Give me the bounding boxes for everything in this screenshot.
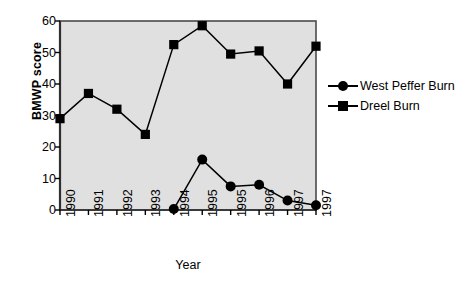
legend-item-2[interactable]: Dreel Burn: [328, 96, 468, 116]
x-tick-label: 1995: [207, 189, 220, 217]
x-tick-label: 1993: [150, 189, 163, 217]
x-tick-label: 1994: [179, 189, 192, 217]
x-tick-label: 1991: [93, 189, 106, 217]
x-tick-label: 1997: [293, 189, 306, 217]
x-tick-label: 1992: [122, 189, 135, 217]
legend-marker-circle-icon: [328, 79, 358, 93]
legend-label: West Peffer Burn: [358, 79, 455, 93]
x-tick-label: 1995: [236, 189, 249, 217]
legend-item-1[interactable]: West Peffer Burn: [328, 76, 468, 96]
x-tick-label: 1996: [264, 189, 277, 217]
x-axis-tick-labels: 1990199119921993199419951995199619971997: [0, 0, 475, 281]
legend-marker-square-icon: [328, 99, 358, 113]
x-tick-label: 1990: [65, 189, 78, 217]
x-tick-label: 1997: [321, 189, 334, 217]
chart-figure: 0102030405060 19901991199219931994199519…: [0, 0, 475, 281]
y-axis-title: BMWP score: [30, 6, 44, 156]
legend-label: Dreel Burn: [358, 99, 420, 113]
x-axis-title: Year: [60, 258, 316, 272]
chart-legend: West Peffer BurnDreel Burn: [328, 76, 468, 116]
